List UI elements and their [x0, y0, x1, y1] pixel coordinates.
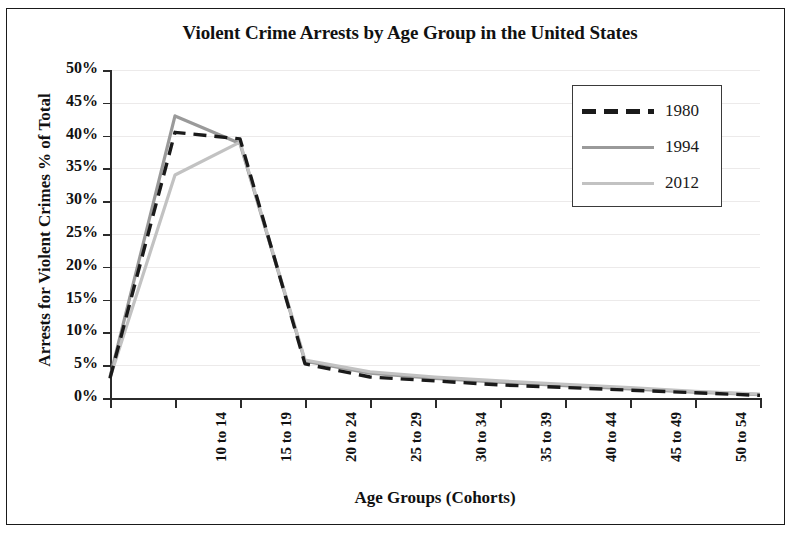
y-tick-label: 35% — [46, 157, 98, 175]
y-tick-mark — [103, 103, 111, 105]
y-tick-mark — [103, 168, 111, 170]
gridline — [110, 234, 760, 235]
legend-label-2012: 2012 — [665, 173, 699, 193]
y-tick-mark — [103, 234, 111, 236]
y-tick-label: 30% — [46, 190, 98, 208]
y-tick-label: 20% — [46, 256, 98, 274]
x-tick-mark — [305, 399, 307, 408]
y-tick-label: 5% — [46, 354, 98, 372]
gridline — [110, 365, 760, 366]
x-tick-mark — [240, 399, 242, 408]
legend-item-2012[interactable]: 2012 — [573, 167, 721, 201]
x-tick-mark — [630, 399, 632, 408]
y-tick-labels: 50%45%40%35%30%25%20%15%10%5%0% — [40, 0, 98, 533]
y-tick-label: 0% — [46, 387, 98, 405]
x-tick-mark — [695, 399, 697, 408]
legend-swatch-2012 — [582, 182, 654, 185]
legend-label-1994: 1994 — [665, 137, 699, 157]
gridline — [110, 332, 760, 333]
legend-swatch-1994 — [582, 146, 654, 149]
x-tick-mark — [500, 399, 502, 408]
y-tick-mark — [103, 300, 111, 302]
legend-swatch-1980 — [582, 109, 654, 114]
x-axis-title: Age Groups (Cohorts) — [110, 488, 760, 508]
x-tick-mark — [565, 399, 567, 408]
x-tick-mark — [175, 399, 177, 408]
y-tick-mark — [103, 365, 111, 367]
legend-item-1980[interactable]: 1980 — [573, 95, 721, 129]
y-tick-label: 45% — [46, 92, 98, 110]
legend-box: 198019942012 — [572, 85, 722, 207]
y-tick-mark — [103, 267, 111, 269]
y-tick-mark — [103, 70, 111, 72]
x-tick-mark — [110, 399, 112, 408]
y-tick-label: 10% — [46, 321, 98, 339]
y-tick-mark — [103, 136, 111, 138]
legend-item-1994[interactable]: 1994 — [573, 131, 721, 165]
y-tick-mark — [103, 201, 111, 203]
gridline — [110, 70, 760, 71]
chart-figure: Violent Crime Arrests by Age Group in th… — [0, 0, 793, 533]
chart-title: Violent Crime Arrests by Age Group in th… — [60, 22, 760, 44]
y-tick-label: 15% — [46, 289, 98, 307]
x-tick-mark — [435, 399, 437, 408]
y-tick-label: 25% — [46, 223, 98, 241]
y-tick-label: 40% — [46, 125, 98, 143]
y-tick-label: 50% — [46, 59, 98, 77]
legend-label-1980: 1980 — [665, 101, 699, 121]
x-tick-mark — [370, 399, 372, 408]
y-tick-mark — [103, 332, 111, 334]
gridline — [110, 267, 760, 268]
gridline — [110, 300, 760, 301]
x-tick-mark — [760, 399, 762, 408]
